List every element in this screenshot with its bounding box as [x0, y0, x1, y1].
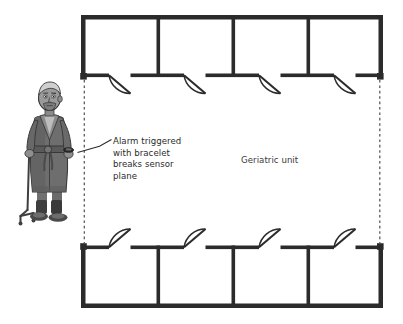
bottom-partition-1: [157, 246, 161, 308]
geriatric-unit-label: Geriatric unit: [241, 155, 298, 167]
top-partition-1: [157, 15, 161, 77]
floor-plan-svg: [0, 0, 403, 324]
bottom-door-1: [109, 229, 131, 247]
diagram-canvas: Alarm triggered with bracelet breaks sen…: [0, 0, 403, 324]
top-block-corridor-wall: [81, 74, 383, 78]
annotation-line-2: with bracelet: [113, 148, 170, 158]
top-door-1: [109, 75, 131, 93]
bottom-partition-2: [232, 246, 236, 308]
top-room-block: [81, 15, 383, 94]
bottom-partition-3: [307, 246, 311, 308]
sensor-marker-top-left: [80, 73, 87, 80]
bottom-door-2: [184, 229, 206, 247]
annotation-line-3: breaks sensor: [113, 159, 174, 169]
top-doors: [109, 75, 356, 93]
top-block-left-wall: [81, 15, 86, 77]
annotation-line-1: Alarm triggered: [113, 136, 181, 146]
bottom-doors: [109, 229, 356, 247]
bottom-door-4: [334, 229, 356, 247]
elderly-patient-figure: [19, 82, 74, 226]
top-partition-2: [232, 15, 236, 77]
top-block-right-wall: [379, 15, 384, 77]
patient-slippers: [30, 212, 68, 221]
alarm-bracelet: [64, 148, 74, 153]
bottom-block-right-wall: [379, 246, 384, 308]
sensor-marker-bottom-left: [80, 243, 87, 250]
top-door-3: [259, 75, 281, 93]
bottom-door-3: [259, 229, 281, 247]
top-partition-3: [307, 15, 311, 77]
annotation-line-4: plane: [113, 171, 137, 181]
alarm-annotation-label: Alarm triggered with bracelet breaks sen…: [113, 136, 181, 182]
patient-head: [39, 82, 63, 116]
bottom-exterior-wall: [81, 304, 383, 309]
top-door-2: [184, 75, 206, 93]
sensor-marker-bottom-right: [377, 243, 384, 250]
bottom-block-left-wall: [81, 246, 86, 308]
bottom-room-block: [81, 229, 383, 308]
top-door-4: [334, 75, 356, 93]
sensor-marker-top-right: [377, 73, 384, 80]
annotation-leader-line: [78, 140, 112, 153]
